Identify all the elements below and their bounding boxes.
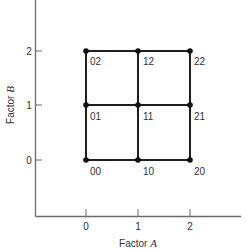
point-01 <box>83 102 89 108</box>
point-label-10: 10 <box>143 166 155 177</box>
point-10 <box>135 157 141 163</box>
y-axis-title-prefix: Factor <box>5 93 16 124</box>
point-12 <box>135 48 141 54</box>
point-11 <box>135 102 141 108</box>
point-02 <box>83 48 89 54</box>
point-label-11: 11 <box>143 111 154 122</box>
point-label-01: 01 <box>90 111 102 122</box>
point-label-20: 20 <box>194 166 206 177</box>
y-tick-label-0: 0 <box>26 155 32 166</box>
y-tick-label-1: 1 <box>26 100 32 111</box>
x-axis-title-prefix: Factor <box>119 238 150 249</box>
point-label-21: 21 <box>194 111 206 122</box>
point-label-02: 02 <box>90 56 102 67</box>
x-axis-title: Factor A <box>119 237 157 249</box>
x-tick-label-2: 2 <box>187 221 193 232</box>
point-label-12: 12 <box>143 56 155 67</box>
point-22 <box>187 48 193 54</box>
point-20 <box>187 157 193 163</box>
point-label-22: 22 <box>194 56 206 67</box>
x-axis-title-var: A <box>149 237 157 249</box>
point-21 <box>187 102 193 108</box>
point-00 <box>83 157 89 163</box>
x-tick-label-0: 0 <box>83 221 89 232</box>
point-label-00: 00 <box>90 166 102 177</box>
x-tick-label-1: 1 <box>135 221 141 232</box>
y-tick-label-2: 2 <box>26 46 32 57</box>
y-axis-title: Factor B <box>4 86 16 124</box>
y-axis-title-var: B <box>4 86 16 93</box>
factorial-grid-diagram: 2 1 0 0 1 2 Factor A Factor B 00 10 20 0… <box>0 0 247 252</box>
